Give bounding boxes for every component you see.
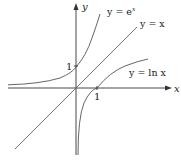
y-axis-arrow-icon (74, 3, 79, 10)
y-axis (74, 3, 79, 155)
ln-label: y = ln x (128, 67, 167, 78)
identity-label: y = x (139, 18, 165, 29)
exp-label: y = ex (106, 5, 136, 17)
exp-curve (8, 14, 100, 85)
y-axis-label: y (81, 1, 88, 12)
x-axis-label: x (174, 83, 180, 94)
function-graph: 1 1 y x y = ex y = x y = ln x (0, 0, 181, 162)
x-axis (8, 86, 172, 91)
x-tick-label: 1 (94, 91, 100, 102)
x-axis-arrow-icon (165, 86, 172, 91)
y-tick-label: 1 (66, 61, 72, 72)
